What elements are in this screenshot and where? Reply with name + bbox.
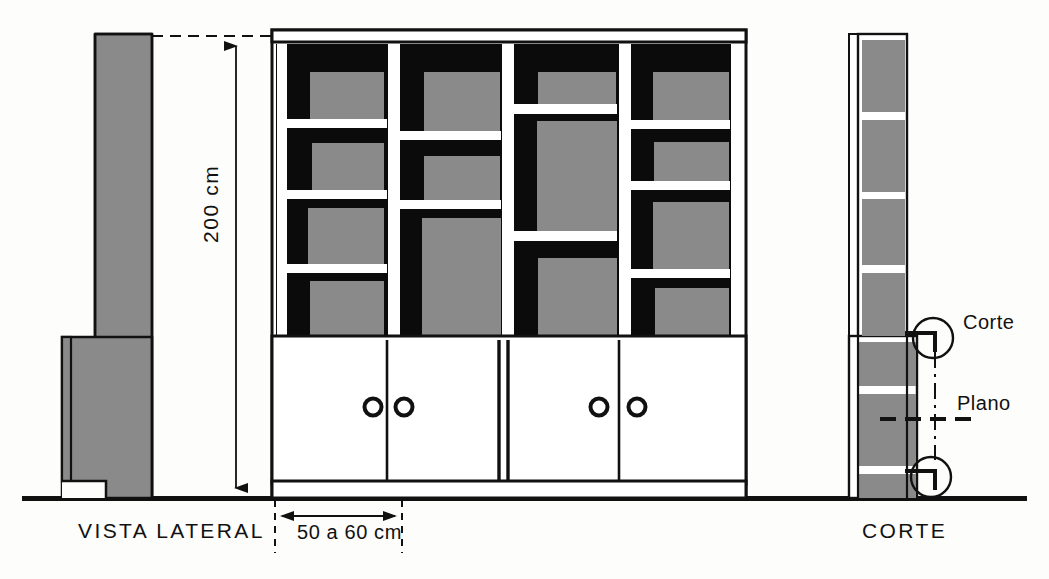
- drawing-svg: [0, 0, 1049, 579]
- label-plano-detail: Plano: [957, 392, 1011, 415]
- technical-drawing-canvas: VISTA LATERAL CORTE 50 a 60 cm 200 cm Co…: [0, 0, 1049, 579]
- label-vista-lateral: VISTA LATERAL: [78, 519, 265, 543]
- section-view-group: [849, 34, 975, 498]
- door-knob[interactable]: [365, 399, 382, 416]
- door-knob[interactable]: [629, 399, 646, 416]
- lower-cabinet-doors: [272, 336, 746, 484]
- label-corte: CORTE: [862, 519, 947, 543]
- label-corte-detail: Corte: [963, 311, 1014, 334]
- dimension-label-width: 50 a 60 cm: [297, 521, 402, 544]
- open-shelving-area: [276, 44, 742, 336]
- side-view-group: [62, 34, 152, 498]
- plinth-base: [272, 481, 746, 498]
- front-elevation-group: [272, 30, 746, 498]
- height-dimension: [152, 36, 272, 488]
- door-knob[interactable]: [396, 399, 413, 416]
- section-shelf-bands-upper: [862, 40, 905, 336]
- door-knob[interactable]: [591, 399, 608, 416]
- dimension-label-height: 200 cm: [199, 165, 223, 243]
